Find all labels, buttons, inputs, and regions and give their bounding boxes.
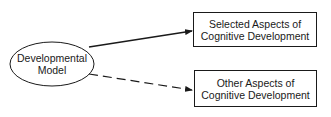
solid-arrow-edge (89, 31, 192, 47)
label-line: Cognitive Development (201, 30, 310, 42)
label-line: Other Aspects of (217, 77, 295, 89)
label-line: Model (38, 64, 67, 76)
selected-aspects-label: Selected Aspects of Cognitive Developmen… (194, 13, 316, 47)
other-aspects-label: Other Aspects of Cognitive Development (195, 71, 316, 107)
developmental-model-label: Developmental Model (10, 42, 94, 86)
dashed-arrow-edge (89, 74, 192, 90)
label-line: Cognitive Development (201, 89, 310, 101)
label-line: Selected Aspects of (209, 18, 301, 30)
label-line: Developmental (17, 52, 87, 64)
